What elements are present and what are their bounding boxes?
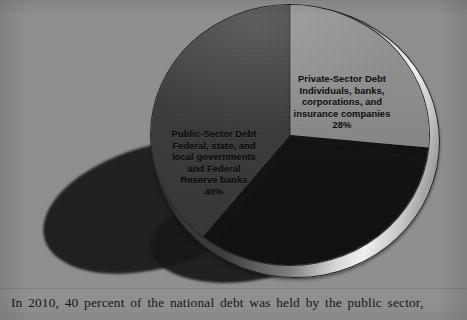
private-label-line3: corporations, and — [302, 96, 382, 107]
public-label-line4: and Federal — [187, 163, 240, 174]
figure-page: Private-Sector Debt Individuals, banks, … — [0, 0, 467, 320]
pie-label-public-sector: Public-Sector Debt Federal, state, and l… — [148, 128, 280, 198]
public-label-line1: Public-Sector Debt — [172, 128, 257, 139]
pie-label-private-sector: Private-Sector Debt Individuals, banks, … — [272, 73, 412, 131]
private-label-line4: insurance companies — [294, 108, 391, 119]
caption-divider — [0, 288, 467, 289]
private-label-line1: Private-Sector Debt — [298, 73, 386, 84]
public-label-line2: Federal, state, and — [172, 140, 255, 151]
private-label-percent: 28% — [272, 119, 412, 131]
caption-text: In 2010, 40 percent of the national debt… — [11, 294, 456, 312]
private-label-line2: Individuals, banks, — [300, 85, 385, 96]
public-label-line5: Reserve banks — [181, 174, 248, 185]
public-label-line3: local governments — [172, 151, 256, 162]
public-label-percent: 40% — [148, 186, 280, 198]
pie-chart-figure: Private-Sector Debt Individuals, banks, … — [0, 0, 467, 288]
figure-caption: In 2010, 40 percent of the national debt… — [0, 288, 467, 320]
